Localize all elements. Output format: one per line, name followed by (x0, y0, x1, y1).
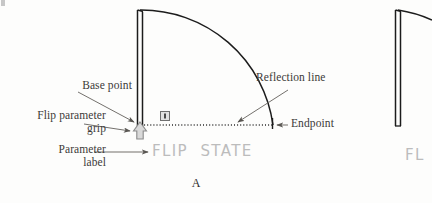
door-swing-arc-partial (398, 10, 432, 20)
callout-parameter-label: Parameter label (14, 143, 106, 168)
door-swing-arc (140, 10, 273, 125)
door-block-figure-b-partial (395, 10, 432, 126)
callout-endpoint: Endpoint (291, 117, 361, 130)
door-panel (137, 10, 143, 126)
cad-label-flip-state: FLIP STATE (152, 142, 253, 160)
figure-caption: A (184, 176, 208, 191)
door-block-diagram (0, 0, 432, 203)
figure-page: Base point Flip parameter grip Parameter… (0, 0, 432, 203)
callout-flip-parameter-grip: Flip parameter grip (2, 109, 106, 134)
callout-reflection-line: Reflection line (256, 71, 366, 84)
leader-reflection-line (238, 90, 288, 122)
callout-base-point: Base point (56, 79, 132, 92)
square-grip-marker-icon[interactable] (161, 112, 170, 121)
cad-label-flip-state-partial: FL (405, 146, 425, 164)
door-block-figure-a (134, 10, 274, 139)
